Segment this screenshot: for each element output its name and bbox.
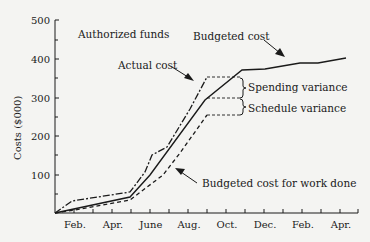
schedule-variance-label: Schedule variance [248,102,346,114]
earned-value-chart: 500 400 300 200 100 Costs ($000) Feb. Ap… [0,0,370,242]
x-tick-feb: Feb. [64,219,86,230]
actual-cost-label: Actual cost [117,59,178,71]
actual-cost-arrow [172,67,194,81]
x-tick-oct: Oct. [217,219,238,230]
budgeted-cost-arrow [264,40,285,57]
y-axis-label: Costs ($000) [12,96,23,160]
x-tick-apr: Apr. [102,219,123,230]
variance-braces [240,78,246,115]
y-tick-100: 100 [31,170,50,181]
y-tick-labels: 500 400 300 200 100 [31,15,50,181]
spending-variance-label: Spending variance [248,81,347,93]
x-tick-labels: Feb. Apr. June Aug. Oct. Dec. Feb. Apr. [64,219,351,230]
y-tick-200: 200 [31,131,50,142]
variance-boxes [207,77,240,115]
x-tick-feb-2: Feb. [292,219,314,230]
bcwp-label: Budgeted cost for work done [202,177,356,189]
bcwp-arrow [175,168,197,183]
x-tick-aug: Aug. [176,219,200,230]
x-tick-dec: Dec. [254,219,277,230]
x-tick-apr-2: Apr. [330,219,351,230]
x-tick-june: June [139,219,163,230]
y-tick-500: 500 [31,15,50,26]
actual-cost-line [55,77,207,213]
x-axis [55,209,358,213]
y-tick-400: 400 [31,54,50,65]
y-tick-300: 300 [31,93,50,104]
bcwp-line [55,115,207,213]
authorized-funds-label: Authorized funds [77,28,169,40]
budgeted-cost-label: Budgeted cost [193,30,270,42]
y-axis [55,20,59,213]
